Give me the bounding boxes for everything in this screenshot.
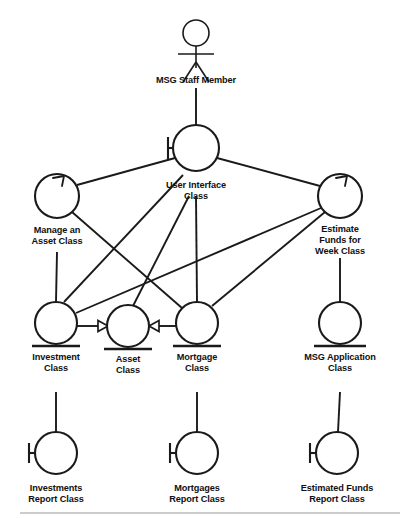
association-manage-asset-to-mortgage bbox=[72, 212, 182, 308]
association-estimate-funds-to-investment bbox=[76, 208, 321, 313]
node-mortgages-report-class[interactable]: Mortgages Report Class bbox=[169, 432, 224, 504]
class-diagram-canvas: MSG Staff Member User Interface Class Ma… bbox=[0, 0, 407, 518]
actor-head-icon bbox=[183, 20, 209, 46]
association-estimate-funds-to-mortgage bbox=[212, 212, 325, 306]
entity-circle-icon bbox=[176, 302, 218, 344]
node-label-line-2: Class bbox=[328, 363, 352, 373]
actor-msg-staff-member[interactable]: MSG Staff Member bbox=[156, 20, 237, 85]
node-label-line-1: Asset bbox=[116, 354, 141, 364]
generalization-arrowhead-mortgage bbox=[149, 321, 159, 332]
node-label-line-2: Report Class bbox=[309, 494, 364, 504]
node-label-line-2: Class bbox=[185, 363, 209, 373]
boundary-circle-icon bbox=[35, 432, 77, 474]
node-label-line-2: Class bbox=[116, 365, 140, 375]
node-msg-application-class[interactable]: MSG Application Class bbox=[304, 302, 376, 373]
node-asset-class[interactable]: Asset Class bbox=[104, 305, 152, 375]
entity-circle-icon bbox=[35, 302, 77, 344]
node-user-interface-class[interactable]: User Interface Class bbox=[166, 125, 226, 201]
association-user-interface-to-estimate-funds bbox=[217, 158, 320, 186]
association-user-interface-to-manage-asset bbox=[77, 158, 175, 185]
node-label-line-3: Week Class bbox=[315, 246, 365, 256]
node-label-line-1: User Interface bbox=[166, 180, 226, 190]
boundary-circle-icon bbox=[176, 432, 218, 474]
node-label-line-1: Mortgages bbox=[174, 483, 220, 493]
node-label-line-1: Estimate bbox=[321, 224, 359, 234]
node-manage-an-asset-class[interactable]: Manage an Asset Class bbox=[32, 174, 83, 246]
node-label-line-1: Investment bbox=[32, 352, 80, 362]
node-label-line-1: Mortgage bbox=[177, 352, 218, 362]
association-msg-application-to-estimated-funds-report bbox=[338, 392, 340, 432]
node-investment-class[interactable]: Investment Class bbox=[32, 302, 80, 373]
node-label-line-2: Class bbox=[44, 363, 68, 373]
entity-circle-icon bbox=[319, 302, 361, 344]
control-circle-icon bbox=[35, 174, 79, 218]
node-label-line-2: Class bbox=[184, 191, 208, 201]
node-label-line-1: Manage an bbox=[34, 225, 81, 235]
control-circle-icon bbox=[318, 174, 362, 218]
actor-label: MSG Staff Member bbox=[156, 75, 237, 85]
entity-circle-icon bbox=[107, 305, 149, 347]
boundary-circle-icon bbox=[316, 432, 358, 474]
boundary-circle-icon bbox=[173, 125, 219, 171]
node-label-line-2: Report Class bbox=[169, 494, 224, 504]
uml-class-diagram-page: MSG Staff Member User Interface Class Ma… bbox=[0, 0, 407, 518]
node-investments-report-class[interactable]: Investments Report Class bbox=[28, 432, 83, 504]
node-label-line-2: Funds for bbox=[319, 235, 361, 245]
node-mortgage-class[interactable]: Mortgage Class bbox=[173, 302, 221, 373]
node-estimated-funds-report-class[interactable]: Estimated Funds Report Class bbox=[301, 432, 374, 504]
node-label-line-1: Estimated Funds bbox=[301, 483, 374, 493]
node-label-line-1: MSG Application bbox=[304, 352, 376, 362]
association-manage-asset-to-investment bbox=[56, 252, 57, 302]
node-label-line-1: Investments bbox=[30, 483, 83, 493]
association-user-interface-to-mortgage bbox=[196, 196, 197, 302]
node-label-line-2: Report Class bbox=[28, 494, 83, 504]
node-label-line-2: Asset Class bbox=[32, 236, 83, 246]
